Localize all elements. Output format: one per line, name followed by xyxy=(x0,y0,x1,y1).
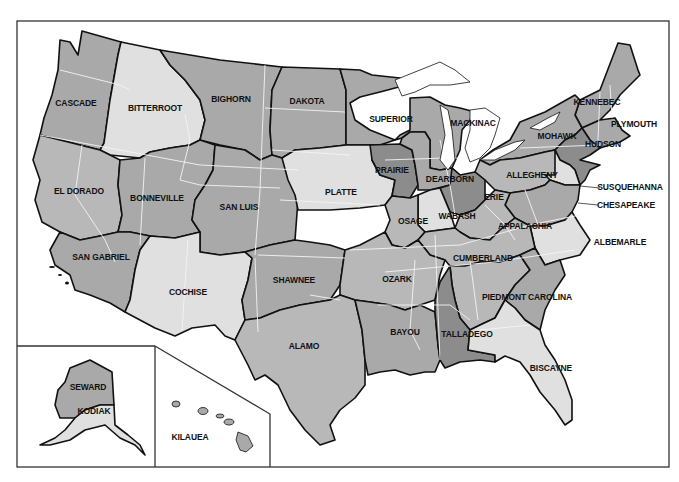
label-seward: SEWARD xyxy=(70,382,107,392)
label-bayou: BAYOU xyxy=(390,327,419,337)
region-kilauea[interactable] xyxy=(172,401,253,452)
label-bonneville: BONNEVILLE xyxy=(130,193,184,203)
label-cochise: COCHISE xyxy=(169,287,207,297)
label-appalachia: APPALACHIA xyxy=(498,221,552,231)
label-ozark: OZARK xyxy=(382,274,413,284)
label-mohawk: MOHAWK xyxy=(537,131,577,141)
label-bitterroot: BITTERROOT xyxy=(128,103,183,113)
label-plymouth: PLYMOUTH xyxy=(611,119,657,129)
label-platte: PLATTE xyxy=(325,187,357,197)
label-carolina: CAROLINA xyxy=(528,292,572,302)
label-superior: SUPERIOR xyxy=(369,114,413,124)
label-biscayne: BISCAYNE xyxy=(530,363,573,373)
label-kilauea: KILAUEA xyxy=(171,432,208,442)
label-hudson: HUDSON xyxy=(585,139,621,149)
label-kodiak: KODIAK xyxy=(78,406,112,416)
label-bighorn: BIGHORN xyxy=(211,94,250,104)
label-dearborn: DEARBORN xyxy=(426,174,474,184)
label-mackinac: MACKINAC xyxy=(450,118,495,128)
label-el-dorado: EL DORADO xyxy=(54,186,104,196)
label-osage: OSAGE xyxy=(398,216,429,226)
label-wabash: WABASH xyxy=(438,211,475,221)
label-shawnee: SHAWNEE xyxy=(273,275,316,285)
label-cumberland: CUMBERLAND xyxy=(453,253,513,263)
label-san-gabriel: SAN GABRIEL xyxy=(72,252,129,262)
label-albemarle: ALBEMARLE xyxy=(594,237,647,247)
label-alamo: ALAMO xyxy=(289,341,320,351)
label-allegheny: ALLEGHENY xyxy=(506,170,558,180)
region-dakota[interactable] xyxy=(270,67,346,158)
region-kennebec[interactable] xyxy=(575,43,640,128)
label-talladego: TALLADEGO xyxy=(441,329,493,339)
label-piedmont: PIEDMONT xyxy=(482,292,527,302)
label-cascade: CASCADE xyxy=(55,98,97,108)
label-prairie: PRAIRIE xyxy=(375,165,409,175)
label-chesapeake: CHESAPEAKE xyxy=(597,200,655,210)
label-erie: ERIE xyxy=(484,192,504,202)
label-susquehanna: SUSQUEHANNA xyxy=(597,182,663,192)
label-san-luis: SAN LUIS xyxy=(220,202,259,212)
label-kennebec: KENNEBEC xyxy=(574,97,621,107)
region-bayou[interactable] xyxy=(355,300,440,375)
us-region-map: CASCADE BITTERROOT BIGHORN DAKOTA SUPERI… xyxy=(0,0,679,482)
label-dakota: DAKOTA xyxy=(289,96,324,106)
